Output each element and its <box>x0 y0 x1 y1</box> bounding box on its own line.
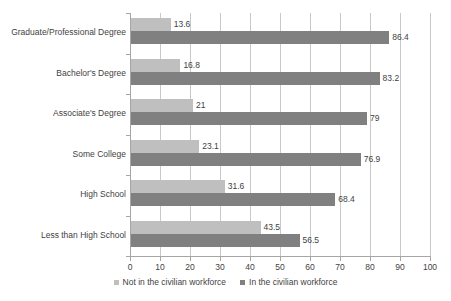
x-axis-tick <box>190 257 191 261</box>
x-axis-tick-label: 30 <box>215 262 224 272</box>
bar <box>130 234 300 247</box>
x-axis-tick <box>370 257 371 261</box>
x-axis-tick <box>130 257 131 261</box>
category-label: Graduate/Professional Degree <box>2 27 126 37</box>
bar <box>130 112 367 125</box>
bar-group: 2179 <box>130 94 430 135</box>
bar-group: 13.686.4 <box>130 13 430 54</box>
bar <box>130 18 171 31</box>
x-axis-tick <box>280 257 281 261</box>
bar-value-label: 76.9 <box>361 153 381 166</box>
bar <box>130 140 199 153</box>
x-axis-tick-label: 100 <box>423 262 437 272</box>
bar-group: 31.668.4 <box>130 175 430 216</box>
bar <box>130 31 389 44</box>
legend-label: In the civilian workforce <box>249 277 337 287</box>
x-axis-tick-label: 40 <box>245 262 254 272</box>
x-axis-tick <box>220 257 221 261</box>
category-label: Associate's Degree <box>2 108 126 118</box>
y-axis-tick <box>126 94 130 95</box>
plot-area: 13.686.416.883.2217923.176.931.668.443.5… <box>130 13 430 256</box>
category-label: Less than High School <box>2 230 126 240</box>
y-axis-tick <box>126 175 130 176</box>
x-axis-tick <box>340 257 341 261</box>
bar-value-label: 16.8 <box>180 59 200 72</box>
x-axis-tick-label: 60 <box>305 262 314 272</box>
x-axis-tick <box>430 257 431 261</box>
category-label: Bachelor's Degree <box>2 68 126 78</box>
x-axis-tick-label: 70 <box>335 262 344 272</box>
x-axis-tick <box>310 257 311 261</box>
y-axis-tick <box>126 54 130 55</box>
bar-group: 23.176.9 <box>130 135 430 176</box>
bar-value-label: 79 <box>367 112 379 125</box>
x-axis-tick-label: 80 <box>365 262 374 272</box>
x-axis-tick <box>400 257 401 261</box>
gridline-100 <box>430 13 431 256</box>
bar <box>130 180 225 193</box>
legend-swatch-icon <box>240 280 245 285</box>
legend-label: Not in the civilian workforce <box>123 277 226 287</box>
x-axis-tick-label: 10 <box>155 262 164 272</box>
bar <box>130 221 261 234</box>
category-label: Some College <box>2 149 126 159</box>
bar <box>130 193 335 206</box>
x-axis-tick-label: 50 <box>275 262 284 272</box>
y-axis-line <box>130 13 131 256</box>
x-axis-tick-label: 90 <box>395 262 404 272</box>
bar-value-label: 21 <box>193 99 205 112</box>
bar-value-label: 83.2 <box>380 72 400 85</box>
bar-value-label: 23.1 <box>199 140 219 153</box>
legend-swatch-icon <box>114 280 119 285</box>
bar <box>130 153 361 166</box>
bar <box>130 59 180 72</box>
bar-chart: Graduate/Professional DegreeBachelor's D… <box>0 0 451 301</box>
bar <box>130 72 380 85</box>
category-label: High School <box>2 189 126 199</box>
y-axis-tick <box>126 13 130 14</box>
chart-legend: Not in the civilian workforceIn the civi… <box>0 277 451 287</box>
bar-value-label: 31.6 <box>225 180 245 193</box>
legend-item[interactable]: In the civilian workforce <box>240 277 337 287</box>
bar-group: 16.883.2 <box>130 54 430 95</box>
x-axis-tick-label: 0 <box>128 262 133 272</box>
bar-value-label: 43.5 <box>261 221 281 234</box>
y-axis-tick <box>126 135 130 136</box>
bar-value-label: 68.4 <box>335 193 355 206</box>
bar-group: 43.556.5 <box>130 216 430 257</box>
x-axis-tick-label: 20 <box>185 262 194 272</box>
bar-value-label: 13.6 <box>171 18 191 31</box>
category-axis-labels: Graduate/Professional DegreeBachelor's D… <box>0 13 126 256</box>
bar <box>130 99 193 112</box>
bar-value-label: 56.5 <box>300 234 320 247</box>
x-axis-tick <box>160 257 161 261</box>
legend-item[interactable]: Not in the civilian workforce <box>114 277 226 287</box>
x-axis-tick <box>250 257 251 261</box>
bar-value-label: 86.4 <box>389 31 409 44</box>
y-axis-tick <box>126 216 130 217</box>
